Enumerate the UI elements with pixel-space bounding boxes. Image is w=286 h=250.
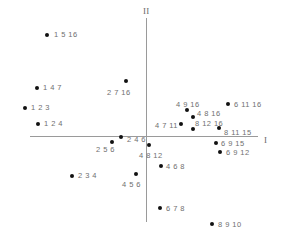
data-point-label: 6 9 15 xyxy=(221,140,245,148)
data-point xyxy=(23,106,27,110)
scatter-plot: II I 1 5 161 4 71 2 31 2 42 7 162 4 62 5… xyxy=(0,0,286,250)
data-point xyxy=(36,122,40,126)
data-point xyxy=(217,126,221,130)
data-point-label: 4 6 8 xyxy=(166,163,185,171)
data-point xyxy=(119,135,123,139)
data-point-label: 4 7 11 xyxy=(155,122,178,130)
data-point-label: 1 2 3 xyxy=(31,104,50,112)
data-point xyxy=(147,143,151,147)
data-point xyxy=(45,33,49,37)
data-point-label: 4 8 12 xyxy=(139,152,163,160)
data-point-label: 6 11 16 xyxy=(234,101,262,109)
data-point xyxy=(210,222,214,226)
data-point xyxy=(124,79,128,83)
data-point-label: 8 11 15 xyxy=(224,129,252,137)
horizontal-axis-label: I xyxy=(264,135,267,145)
data-point-label: 1 4 7 xyxy=(43,84,62,92)
data-point-label: 6 9 12 xyxy=(226,149,250,157)
data-point-label: 2 3 4 xyxy=(78,172,97,180)
data-point xyxy=(110,140,114,144)
data-point-label: 4 5 6 xyxy=(122,181,141,189)
data-point-label: 6 7 8 xyxy=(166,205,185,213)
data-point xyxy=(218,150,222,154)
data-point xyxy=(179,122,183,126)
data-point-label: 1 2 4 xyxy=(44,120,63,128)
data-point xyxy=(134,172,138,176)
data-point xyxy=(159,164,163,168)
data-point-label: 8 9 10 xyxy=(218,221,242,229)
data-point-label: 4 8 16 xyxy=(197,110,221,118)
vertical-axis xyxy=(146,18,147,222)
vertical-axis-label: II xyxy=(143,6,150,16)
data-point-label: 4 9 16 xyxy=(176,101,200,109)
data-point-label: 2 5 6 xyxy=(96,146,115,154)
data-point-label: 1 5 16 xyxy=(54,31,78,39)
data-point xyxy=(70,174,74,178)
data-point xyxy=(214,141,218,145)
data-point-label: 2 7 16 xyxy=(107,89,131,97)
data-point xyxy=(226,102,230,106)
data-point-label: 2 4 6 xyxy=(127,136,146,144)
data-point xyxy=(158,206,162,210)
data-point xyxy=(35,86,39,90)
